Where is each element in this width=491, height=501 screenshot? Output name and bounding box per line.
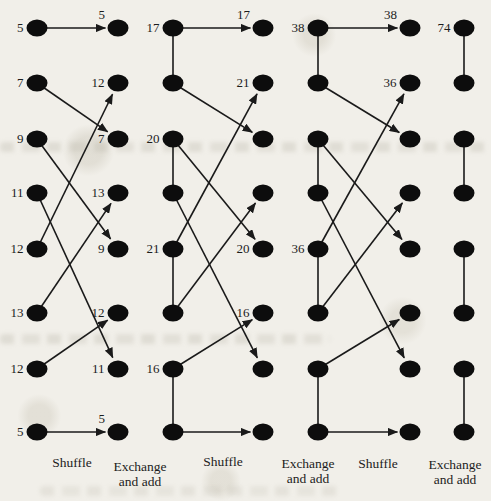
node-col2-row4 xyxy=(108,184,129,201)
node-value-label: 7 xyxy=(98,131,105,146)
node-value-label: 7 xyxy=(17,75,24,90)
node-col1-row7 xyxy=(27,360,48,377)
node-value-label: 12 xyxy=(92,305,105,320)
node-col6-row5 xyxy=(400,240,421,257)
node-value-label: 21 xyxy=(147,241,160,256)
node-col4-row5 xyxy=(253,240,274,257)
node-col3-row2 xyxy=(163,74,184,91)
node-col2-row8 xyxy=(108,423,129,440)
arrow-value-label: 5 xyxy=(99,411,106,426)
shuffle-arrow xyxy=(318,319,399,369)
node-col6-row8 xyxy=(400,423,421,440)
node-value-label: 16 xyxy=(237,305,251,320)
node-value-label: 5 xyxy=(17,424,24,439)
shuffle-arrow xyxy=(173,320,252,369)
node-col4-row2 xyxy=(253,74,274,91)
node-col4-row4 xyxy=(253,184,274,201)
node-col7-row8 xyxy=(454,423,475,440)
shuffle-arrow xyxy=(318,139,402,239)
node-value-label: 12 xyxy=(11,361,24,376)
node-col7-row4 xyxy=(454,184,475,201)
node-col5-row6 xyxy=(308,304,329,321)
shuffle-arrow xyxy=(173,139,255,239)
node-value-label: 21 xyxy=(237,75,250,90)
node-value-label: 16 xyxy=(147,361,161,376)
node-col3-row8 xyxy=(163,423,184,440)
node-col7-row5 xyxy=(454,240,475,257)
node-col1-row3 xyxy=(27,130,48,147)
node-value-label: 11 xyxy=(11,185,24,200)
node-col7-row1 xyxy=(454,19,475,36)
node-value-label: 9 xyxy=(98,241,105,256)
node-col4-row3 xyxy=(253,130,274,147)
node-col5-row4 xyxy=(308,184,329,201)
node-col6-row2 xyxy=(400,74,421,91)
node-col1-row4 xyxy=(27,184,48,201)
node-col4-row7 xyxy=(253,360,274,377)
shuffle-arrow xyxy=(37,203,111,313)
node-value-label: 12 xyxy=(92,75,105,90)
node-value-label: 13 xyxy=(11,305,24,320)
node-col1-row1 xyxy=(27,19,48,36)
node-col4-row8 xyxy=(253,423,274,440)
node-col6-row3 xyxy=(400,130,421,147)
node-col7-row2 xyxy=(454,74,475,91)
node-col2-row2 xyxy=(108,74,129,91)
shuffle-arrow xyxy=(318,203,402,313)
node-value-label: 5 xyxy=(17,20,24,35)
node-col3-row5 xyxy=(163,240,184,257)
node-col3-row6 xyxy=(163,304,184,321)
node-value-label: 20 xyxy=(237,241,250,256)
node-col5-row1 xyxy=(308,19,329,36)
node-col4-row6 xyxy=(253,304,274,321)
node-value-label: 74 xyxy=(438,20,452,35)
node-col7-row6 xyxy=(454,304,475,321)
node-col6-row6 xyxy=(400,304,421,321)
node-col2-row5 xyxy=(108,240,129,257)
figure-page: 5517385791112131251271391211172021162120… xyxy=(0,0,491,501)
stage-label-exchange-add-3: Exchange and add xyxy=(428,458,481,487)
node-col4-row1 xyxy=(253,19,274,36)
node-col2-row7 xyxy=(108,360,129,377)
node-value-label: 11 xyxy=(92,361,105,376)
arrow-value-label: 38 xyxy=(384,7,397,22)
node-value-label: 17 xyxy=(147,20,161,35)
node-col2-row6 xyxy=(108,304,129,321)
node-col5-row3 xyxy=(308,130,329,147)
node-col3-row1 xyxy=(163,19,184,36)
node-value-label: 36 xyxy=(292,241,306,256)
shuffle-arrow xyxy=(173,203,256,313)
stage-label-shuffle-1: Shuffle xyxy=(52,456,92,471)
stage-label-exchange-add-1: Exchange and add xyxy=(113,460,166,489)
node-col3-row4 xyxy=(163,184,184,201)
node-col7-row7 xyxy=(454,360,475,377)
node-col1-row5 xyxy=(27,240,48,257)
shuffle-exchange-network-diagram: 5517385791112131251271391211172021162120… xyxy=(0,0,491,501)
arrow-value-label: 5 xyxy=(99,7,106,22)
node-col5-row7 xyxy=(308,360,329,377)
node-value-label: 38 xyxy=(292,20,305,35)
node-col1-row8 xyxy=(27,423,48,440)
arrow-value-label: 17 xyxy=(237,7,251,22)
node-col3-row7 xyxy=(163,360,184,377)
node-col6-row4 xyxy=(400,184,421,201)
node-value-label: 20 xyxy=(147,131,160,146)
node-col2-row1 xyxy=(108,19,129,36)
node-value-label: 36 xyxy=(384,75,398,90)
node-value-label: 12 xyxy=(11,241,24,256)
stage-label-shuffle-2: Shuffle xyxy=(203,455,243,470)
node-col5-row8 xyxy=(308,423,329,440)
stage-label-shuffle-3: Shuffle xyxy=(358,457,398,472)
node-col3-row3 xyxy=(163,130,184,147)
node-value-label: 9 xyxy=(17,131,24,146)
node-col1-row2 xyxy=(27,74,48,91)
node-value-label: 13 xyxy=(92,185,105,200)
node-col2-row3 xyxy=(108,130,129,147)
node-col6-row7 xyxy=(400,360,421,377)
node-col5-row5 xyxy=(308,240,329,257)
node-col7-row3 xyxy=(454,130,475,147)
stage-label-exchange-add-2: Exchange and add xyxy=(281,457,334,486)
node-col5-row2 xyxy=(308,74,329,91)
node-col6-row1 xyxy=(400,19,421,36)
node-col1-row6 xyxy=(27,304,48,321)
